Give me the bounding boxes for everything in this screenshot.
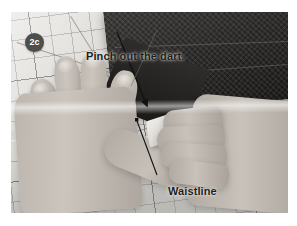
- step-badge: 2c: [25, 33, 44, 52]
- photograph: Pinch out the dart. Waistline 2c: [11, 12, 288, 213]
- annotation-overlay: [11, 12, 288, 213]
- annotation-label-pinch: Pinch out the dart.: [86, 50, 184, 62]
- annotation-label-waistline: Waistline: [168, 185, 217, 197]
- step-badge-label: 2c: [29, 38, 39, 47]
- figure-page: Pinch out the dart. Waistline 2c: [0, 0, 297, 226]
- pinch-arrow-leader: [117, 32, 147, 106]
- waistline-leader-line: [137, 121, 157, 175]
- waistline-leader-dot: [135, 118, 138, 121]
